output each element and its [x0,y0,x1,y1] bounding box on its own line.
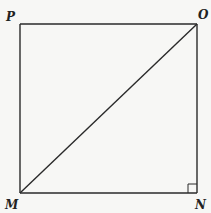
geometry-figure: P O M N [0,0,211,213]
diagonal-mo [20,24,197,193]
vertex-label-m: M [4,198,19,212]
right-angle-marker-n [188,184,197,193]
vertex-label-o: O [198,8,209,22]
vertex-label-p: P [5,10,16,24]
square-sides [20,24,197,193]
vertex-label-n: N [194,198,207,212]
square-diagram: P O M N [0,0,211,213]
